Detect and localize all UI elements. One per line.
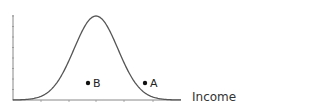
point-a-label: A bbox=[150, 77, 158, 90]
point-b-label: B bbox=[93, 77, 101, 90]
point-a bbox=[143, 81, 147, 85]
point-b bbox=[86, 81, 90, 85]
x-axis-label: Income bbox=[192, 90, 236, 104]
